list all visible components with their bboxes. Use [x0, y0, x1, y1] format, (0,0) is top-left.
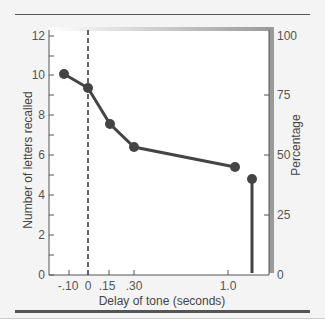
- y2-axis-label: Percentage: [289, 114, 303, 176]
- svg-text:1.0: 1.0: [220, 279, 237, 293]
- x-tick-labels: -.10 0 .15 .30 1.0: [58, 279, 237, 293]
- svg-text:100: 100: [277, 29, 297, 43]
- svg-text:12: 12: [32, 29, 46, 43]
- svg-text:6: 6: [38, 148, 45, 162]
- svg-text:4: 4: [38, 188, 45, 202]
- svg-text:25: 25: [277, 208, 291, 222]
- svg-text:.15: .15: [99, 279, 116, 293]
- right-axis-bar: [269, 27, 274, 273]
- svg-text:0: 0: [277, 268, 284, 282]
- svg-text:.30: .30: [126, 279, 143, 293]
- svg-text:0: 0: [38, 268, 45, 282]
- y-axis-label: Number of letters recalled: [21, 91, 35, 228]
- svg-text:0: 0: [85, 279, 92, 293]
- x-axis-label: Delay of tone (seconds): [99, 294, 226, 308]
- chart: 0 2 4 6 8 10 12 0 25 50 75 100 -.10 0 .1…: [0, 0, 325, 330]
- whole-report-point: [247, 174, 257, 184]
- svg-text:10: 10: [32, 68, 46, 82]
- svg-text:8: 8: [38, 108, 45, 122]
- svg-text:2: 2: [38, 228, 45, 242]
- svg-text:75: 75: [277, 88, 291, 102]
- top-border: [49, 27, 273, 31]
- svg-text:-.10: -.10: [58, 279, 79, 293]
